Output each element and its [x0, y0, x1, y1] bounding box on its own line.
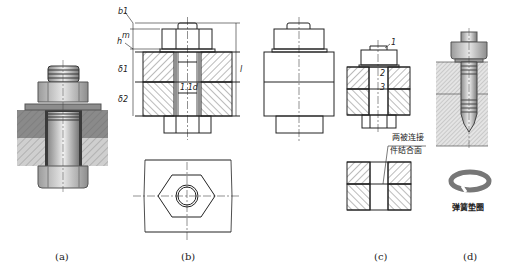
caption-c: (c) [374, 251, 387, 262]
panel-a-pictorial [17, 60, 108, 192]
joint-surface-note-line2: 件结合面 [390, 146, 422, 156]
callout-3: 3 [380, 83, 385, 92]
caption-b: (b) [181, 251, 195, 262]
panel-b-top-view [133, 160, 241, 240]
callout-2: 2 [380, 69, 385, 78]
panel-d-stud [436, 28, 489, 192]
callout-1: 1 [391, 38, 396, 47]
caption-a: (a) [55, 251, 69, 262]
dim-label-delta1: δ1 [118, 65, 128, 74]
dim-label-delta2: δ2 [118, 95, 128, 104]
dim-label-h: h [117, 37, 122, 46]
panel-external-view [264, 17, 334, 142]
bolt-connection-figure: b1 m h δ1 δ2 l 1.1d [0, 0, 520, 274]
dim-label-hole: 1.1d [180, 83, 199, 92]
panel-b-section [125, 12, 240, 140]
joint-surface-note-line1: 两被连接 [392, 133, 424, 143]
spring-washer-icon [451, 172, 489, 190]
caption-d: (d) [463, 251, 477, 262]
dim-label-b1: b1 [118, 7, 128, 16]
spring-washer-label: 弹簧垫圈 [452, 203, 484, 213]
dim-label-m: m [122, 31, 130, 40]
dim-label-l: l [240, 65, 243, 74]
panel-c-simplified [347, 40, 426, 210]
